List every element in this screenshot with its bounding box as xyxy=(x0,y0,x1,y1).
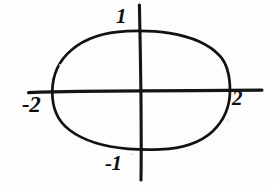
y-axis-label-positive-one: 1 xyxy=(116,6,126,27)
x-axis xyxy=(29,90,263,93)
x-axis-label-positive-two: 2 xyxy=(232,88,242,109)
y-axis-label-negative-one: -1 xyxy=(105,153,122,174)
ellipse-figure: 1 -1 -2 2 xyxy=(0,0,273,187)
x-axis-label-negative-two: -2 xyxy=(22,93,40,116)
